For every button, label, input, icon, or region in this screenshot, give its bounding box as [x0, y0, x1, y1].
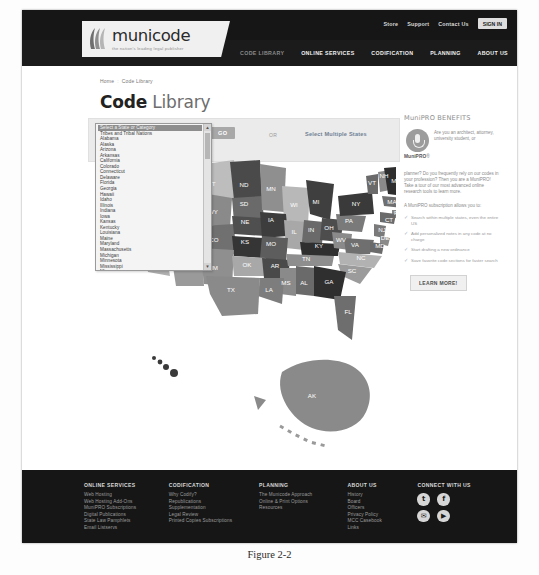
footer-link[interactable]: State Law Pamphlets — [84, 518, 156, 525]
map-label-fl[interactable]: FL — [344, 308, 352, 315]
site-footer: ONLINE SERVICES Web HostingWeb Hosting A… — [22, 470, 517, 543]
footer-link[interactable]: Republications — [169, 499, 246, 506]
twitter-icon[interactable]: t — [417, 493, 430, 506]
map-label-ks[interactable]: KS — [241, 238, 249, 245]
map-label-ma[interactable]: MA — [387, 198, 396, 205]
youtube-icon[interactable]: ▶ — [437, 510, 450, 523]
footer-link[interactable]: Why Codify? — [169, 492, 246, 499]
map-label-ri[interactable]: RI — [394, 209, 396, 216]
footer-link[interactable]: History — [347, 492, 404, 499]
footer-link[interactable]: Digital Publications — [84, 512, 156, 519]
footer-column-online-services: ONLINE SERVICES Web HostingWeb Hosting A… — [84, 482, 156, 532]
scrollbar-thumb[interactable] — [205, 133, 210, 159]
map-label-ok[interactable]: OK — [243, 261, 253, 268]
map-label-nj[interactable]: NJ — [378, 226, 386, 233]
nav-codification[interactable]: CODIFICATION — [371, 50, 413, 56]
munipro-brand-text: MuniPRO — [404, 154, 426, 159]
map-label-me[interactable]: ME — [391, 177, 396, 184]
map-label-sc[interactable]: SC — [348, 267, 357, 274]
map-label-tx[interactable]: TX — [227, 286, 235, 293]
select-multiple-states-link[interactable]: Select Multiple States — [305, 131, 367, 137]
learn-more-button[interactable]: LEARN MORE! — [410, 275, 467, 291]
or-label: OR — [269, 132, 277, 138]
footer-link[interactable]: Printed Copies Subscriptions — [169, 518, 246, 525]
state-dropdown-list[interactable]: Select a State or CategoryTribes and Tri… — [95, 123, 212, 271]
footer-link[interactable]: Resources — [259, 505, 334, 512]
map-label-il[interactable]: IL — [291, 228, 297, 235]
map-label-nh[interactable]: NH — [380, 172, 389, 179]
footer-link[interactable]: Privacy Policy — [347, 512, 404, 519]
rail-intro-text: Are you an architect, attorney, universi… — [434, 130, 498, 142]
map-label-de[interactable]: DE — [381, 234, 390, 241]
benefit-text: Start drafting a new ordinance — [411, 247, 470, 253]
footer-link[interactable]: The Municode Approach — [259, 492, 334, 499]
map-label-md[interactable]: MD — [375, 242, 385, 249]
footer-link-list: Web HostingWeb Hosting Add-OnsMuniPRO Su… — [84, 492, 156, 532]
footer-link[interactable]: Supplementation — [169, 505, 246, 512]
footer-link[interactable]: MCC Casebook — [347, 518, 404, 525]
footer-link[interactable]: Links — [347, 525, 404, 532]
footer-link-list: HistoryBoardOfficersPrivacy PolicyMCC Ca… — [347, 492, 404, 532]
map-label-vt[interactable]: VT — [368, 179, 376, 186]
map-label-tn[interactable]: TN — [302, 255, 310, 262]
footer-heading: PLANNING — [259, 482, 334, 488]
scroll-down-arrow-icon[interactable]: ▼ — [204, 263, 211, 270]
footer-link[interactable]: Board — [347, 499, 404, 506]
scanned-page: Store Support Contact Us SIGN IN municod… — [0, 0, 539, 575]
footer-column-planning: PLANNING The Municode ApproachOnline & P… — [259, 482, 334, 532]
rail-benefit-list: ✓Search within multiple states, even the… — [404, 215, 499, 264]
page-body: Home:Code Library Code Library GO OR Sel… — [22, 66, 517, 470]
map-label-nd[interactable]: ND — [240, 181, 249, 188]
map-label-ne[interactable]: NE — [241, 218, 250, 225]
map-label-mn[interactable]: MN — [266, 185, 276, 192]
map-label-ny[interactable]: NY — [352, 200, 361, 207]
footer-link[interactable]: Email Listservs — [84, 525, 156, 532]
map-label-la[interactable]: LA — [265, 286, 273, 293]
figure-caption: Figure 2-2 — [0, 549, 539, 560]
map-label-ms[interactable]: MS — [281, 279, 290, 286]
map-label-ct[interactable]: CT — [385, 216, 393, 223]
footer-link[interactable]: Online & Print Options — [259, 499, 334, 506]
scroll-up-arrow-icon[interactable]: ▲ — [204, 124, 211, 131]
facebook-icon[interactable]: f — [437, 493, 450, 506]
go-button[interactable]: GO — [211, 127, 235, 139]
map-label-al[interactable]: AL — [300, 279, 308, 286]
nav-code-library[interactable]: CODE LIBRARY — [240, 50, 284, 56]
nav-planning[interactable]: PLANNING — [430, 50, 460, 56]
map-label-in[interactable]: IN — [308, 226, 314, 233]
nav-about-us[interactable]: ABOUT US — [477, 50, 507, 56]
rail-title: MuniPRO BENEFITS — [404, 114, 499, 122]
map-label-ar[interactable]: AR — [271, 262, 280, 269]
footer-link[interactable]: MuniPRO Subscriptions — [84, 505, 156, 512]
state-option-list[interactable]: Select a State or CategoryTribes and Tri… — [96, 124, 202, 271]
map-label-ga[interactable]: GA — [325, 278, 335, 285]
map-label-oh[interactable]: OH — [324, 224, 333, 231]
state-option[interactable]: Missouri — [98, 269, 202, 271]
map-label-ia[interactable]: IA — [268, 216, 275, 223]
map-label-wi[interactable]: WI — [290, 201, 298, 208]
map-label-va[interactable]: VA — [351, 241, 360, 248]
footer-link[interactable]: Web Hosting Add-Ons — [84, 499, 156, 506]
check-icon: ✓ — [404, 231, 408, 242]
map-label-pa[interactable]: PA — [345, 217, 354, 224]
footer-link[interactable]: Legal Review — [169, 512, 246, 519]
map-label-ky[interactable]: KY — [315, 242, 323, 249]
map-label-mi[interactable]: MI — [313, 198, 320, 205]
map-label-mo[interactable]: MO — [266, 240, 276, 247]
map-label-ak[interactable]: AK — [308, 392, 317, 399]
map-label-wv[interactable]: WV — [336, 236, 347, 243]
benefit-item: ✓Search within multiple states, even the… — [404, 215, 499, 226]
map-label-sd[interactable]: SD — [240, 200, 249, 207]
site-logo[interactable]: municode the nation's leading legal publ… — [82, 21, 230, 57]
footer-column-about-us: ABOUT US HistoryBoardOfficersPrivacy Pol… — [347, 482, 404, 532]
map-label-hi[interactable]: HI — [169, 363, 175, 370]
map-label-nc[interactable]: NC — [357, 254, 366, 261]
footer-link[interactable]: Web Hosting — [84, 492, 156, 499]
dropdown-scrollbar[interactable]: ▲ ▼ — [203, 124, 211, 270]
breadcrumb-separator: : — [117, 78, 119, 84]
nav-online-services[interactable]: ONLINE SERVICES — [301, 50, 354, 56]
footer-link[interactable]: Officers — [347, 505, 404, 512]
social-icons: tf✉▶ — [417, 493, 491, 522]
breadcrumb-home[interactable]: Home — [100, 78, 114, 84]
email-icon[interactable]: ✉ — [417, 510, 430, 523]
